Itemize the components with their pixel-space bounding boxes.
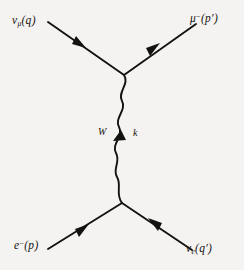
label-incoming-muon-neutrino: νμ(q): [12, 15, 36, 27]
leg-stroke-muon: [124, 24, 196, 75]
label-outgoing-muon: μ−(p′): [190, 13, 218, 25]
incoming-electron-line: [48, 203, 122, 249]
arrowhead-electron-icon: [75, 224, 89, 237]
outgoing-muon-line: [124, 24, 196, 75]
diagram-canvas: [0, 0, 244, 270]
label-propagator-momentum: k: [133, 128, 138, 138]
label-nue-momentum: (q′): [195, 242, 212, 254]
arrowhead-numu-icon: [72, 36, 86, 48]
label-electron-momentum: (p): [24, 239, 38, 251]
w-boson-propagator: [113, 75, 126, 203]
leg-stroke-numu: [48, 22, 124, 75]
label-w-boson: W: [98, 127, 107, 137]
label-incoming-electron: e−(p): [14, 240, 39, 252]
label-numu-momentum: (q): [21, 14, 35, 26]
label-muon-momentum: (p′): [201, 12, 218, 24]
label-outgoing-electron-neutrino: νe(q′): [186, 243, 212, 255]
feynman-diagram-figure: νμ(q) μ−(p′) e−(p) νe(q′) W k: [0, 0, 244, 270]
outgoing-electron-neutrino-line: [122, 203, 192, 250]
incoming-muon-neutrino-line: [48, 22, 124, 75]
